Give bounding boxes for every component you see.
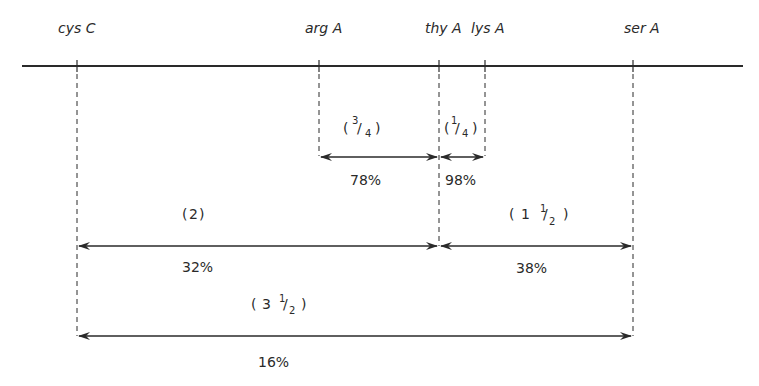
cotransduction-cysc-thya: 32% <box>182 259 213 275</box>
svg-text:2: 2 <box>549 216 555 227</box>
gene-label-sera: ser A <box>624 20 660 36</box>
gene-label-arga: arg A <box>305 20 342 36</box>
svg-text:3: 3 <box>262 296 271 312</box>
gene-label-thya: thy A <box>425 20 462 36</box>
cotransduction-cysc-sera: 16% <box>258 354 289 370</box>
svg-text:2: 2 <box>289 305 295 316</box>
genetic-map-diagram: cys C arg A thy A lys A ser A ( 3 / 4 ) … <box>0 0 759 386</box>
svg-text:/: / <box>455 120 460 136</box>
interval-cysc-sera: ( 3 1 / 2 ) 16% <box>79 293 631 370</box>
svg-text:(: ( <box>509 206 514 222</box>
cotransduction-arga-thya: 78% <box>350 172 381 188</box>
map-svg: cys C arg A thy A lys A ser A ( 3 / 4 ) … <box>0 0 759 386</box>
svg-text:4: 4 <box>365 128 371 139</box>
interval-thya-lysa: ( 1 / 4 ) 98% <box>441 115 483 188</box>
svg-text:): ) <box>301 296 306 312</box>
svg-text:(: ( <box>182 206 187 222</box>
svg-text:(: ( <box>444 120 449 136</box>
svg-text:): ) <box>375 120 380 136</box>
svg-text:): ) <box>199 206 204 222</box>
cotransduction-thya-lysa: 98% <box>445 172 476 188</box>
gene-label-cysc: cys C <box>58 20 96 36</box>
svg-text:): ) <box>472 120 477 136</box>
svg-text:(: ( <box>251 296 256 312</box>
svg-text:(: ( <box>343 120 348 136</box>
interval-thya-sera: ( 1 1 / 2 ) 38% <box>441 203 631 276</box>
svg-text:2: 2 <box>189 206 198 222</box>
svg-text:/: / <box>283 296 288 312</box>
interval-arga-thya: ( 3 / 4 ) 78% <box>321 115 437 188</box>
interval-cysc-thya: ( 2 ) 32% <box>79 206 437 275</box>
svg-text:1: 1 <box>521 206 530 222</box>
svg-text:): ) <box>563 206 568 222</box>
cotransduction-thya-sera: 38% <box>516 260 547 276</box>
gene-label-lysa: lys A <box>471 20 505 36</box>
dashed-guides <box>77 74 633 336</box>
svg-text:/: / <box>357 120 362 136</box>
svg-text:4: 4 <box>462 128 468 139</box>
svg-text:/: / <box>543 206 548 222</box>
